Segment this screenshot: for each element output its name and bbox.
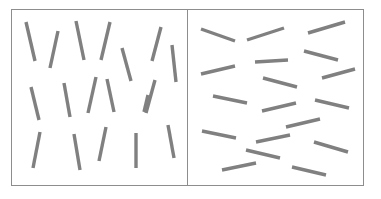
line-orientation-stimulus-figure [0,0,381,199]
figure-canvas [0,0,381,199]
line-segment [255,60,288,62]
